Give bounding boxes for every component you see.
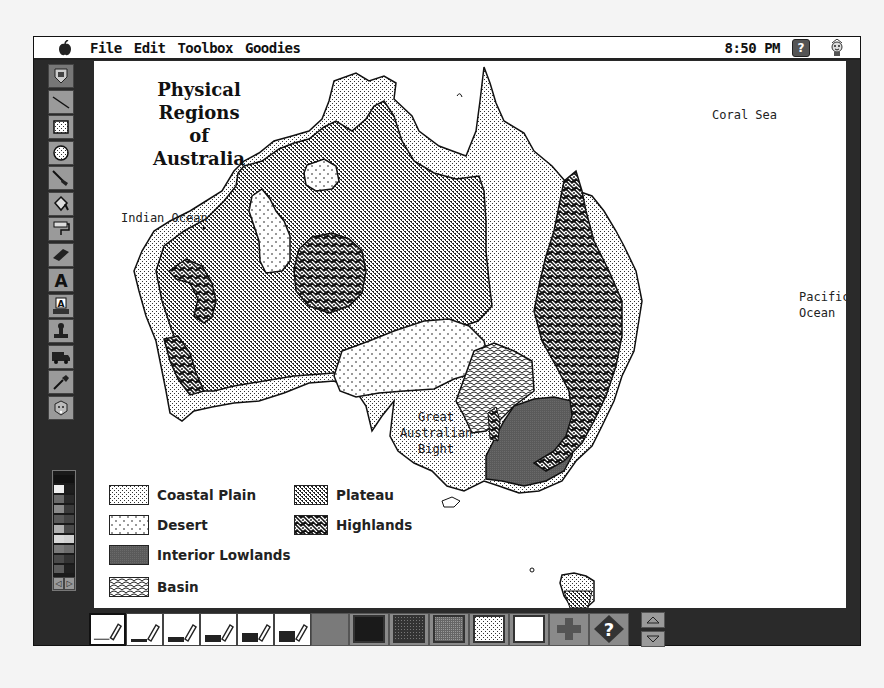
palette-swatch[interactable] [64,505,74,513]
menu-file[interactable]: File [90,40,122,56]
truck-tool[interactable] [48,345,74,369]
legend-label: Basin [157,579,199,595]
palette-swatch[interactable] [64,535,74,543]
paint-bucket-tool[interactable] [48,192,74,216]
interior-lowlands-swatch [109,545,149,565]
brush-size-2[interactable] [126,613,163,646]
legend-label: Highlands [336,517,412,533]
undo-face-icon [51,399,71,417]
color-palette: ◁ ▷ [52,470,76,591]
palette-swatch[interactable] [54,565,64,573]
palette-next-button[interactable]: ▷ [64,577,75,590]
palette-swatch[interactable] [54,535,64,543]
fill-medium-texture[interactable] [429,613,469,646]
text-tool[interactable]: A [48,268,74,292]
legend-item-highlands: Highlands [294,515,412,535]
palette-swatch[interactable] [54,545,64,553]
paint-roller-tool[interactable] [48,217,74,241]
coastal-plain-swatch [109,485,149,505]
toolbox: A A [48,64,74,421]
palette-swatch[interactable] [64,525,74,533]
eyedropper-tool[interactable] [48,370,74,394]
stamp-tool[interactable] [48,319,74,343]
rectangle-tool[interactable] [48,115,74,139]
palette-swatch[interactable] [54,485,64,493]
clock: 8:50 PM [724,40,780,56]
apple-icon[interactable] [56,40,74,56]
svg-text:A: A [54,271,68,289]
brush-size-4[interactable] [200,613,237,646]
keyboard-text-tool[interactable]: A [48,294,74,318]
legend-item-coastal-plain: Coastal Plain [109,485,256,505]
brush-size-3[interactable] [163,613,200,646]
legend-item-interior-lowlands: Interior Lowlands [109,545,291,565]
menu-goodies[interactable]: Goodies [245,40,301,56]
desert-swatch [109,515,149,535]
rectangle-icon [51,118,71,136]
bight-line-3: Bight [381,441,491,457]
cross-icon[interactable] [549,613,589,646]
pacific-line-1: Pacific [799,289,846,305]
keyboard-text-icon: A [51,297,71,315]
palette-swatch[interactable] [64,545,74,553]
truck-icon [51,348,71,366]
line-tool[interactable] [48,90,74,114]
palette-swatch[interactable] [64,515,74,523]
pencil-line-icon [239,617,273,645]
drawing-canvas[interactable]: Physical Regions of Australia Indian Oce… [94,61,846,608]
options-bar: ? [89,612,819,646]
title-line-3: Australia [119,147,279,170]
title-line-1: Physical Regions [119,78,279,124]
palette-swatch[interactable] [64,495,74,503]
line-icon [51,93,71,111]
eraser-tool[interactable] [48,243,74,267]
palette-swatch[interactable] [54,555,64,563]
oval-icon [51,144,71,162]
up-arrow-icon[interactable] [641,612,665,628]
fill-black[interactable] [349,613,389,646]
menu-edit[interactable]: Edit [134,40,166,56]
stamp-mascot-icon[interactable] [828,39,846,57]
undo-guy-tool[interactable] [48,396,74,420]
brush-size-1[interactable] [89,613,126,646]
palette-swatch[interactable] [64,555,74,563]
menu-toolbox[interactable]: Toolbox [177,40,233,56]
region-tasmania-plateau [564,591,592,608]
help-icon[interactable]: ? [792,39,810,57]
brush-tool[interactable] [48,166,74,190]
bight-line-1: Great [381,409,491,425]
paint-roller-icon [51,220,71,238]
palette-swatch[interactable] [64,565,74,573]
title-line-2: of [119,124,279,147]
palette-swatch[interactable] [54,505,64,513]
fill-dark-texture[interactable] [389,613,429,646]
palette-swatch[interactable] [54,475,64,483]
eraser-icon [51,246,71,264]
fill-light-dots[interactable] [469,613,509,646]
palette-swatch[interactable] [64,485,74,493]
text-a-icon: A [51,271,71,289]
pencil-line-icon [202,617,236,645]
oval-tool[interactable] [48,141,74,165]
label-coral-sea: Coral Sea [712,107,777,123]
palette-swatch[interactable] [54,515,64,523]
brush-size-5[interactable] [237,613,274,646]
brush-icon [51,169,71,187]
legend-item-basin: Basin [109,577,199,597]
palette-swatch[interactable] [54,525,64,533]
label-pacific-ocean: Pacific Ocean [799,289,846,321]
brush-size-6[interactable] [274,613,311,646]
map-title: Physical Regions of Australia [119,78,279,170]
magic-tool[interactable] [48,64,74,88]
bight-line-2: Australian [381,425,491,441]
app-window: File Edit Toolbox Goodies 8:50 PM ? [33,36,861,646]
palette-swatch[interactable] [64,475,74,483]
help-diamond-button[interactable]: ? [589,613,629,646]
palette-prev-button[interactable]: ◁ [53,577,64,590]
palette-swatch[interactable] [54,495,64,503]
menu-bar: File Edit Toolbox Goodies 8:50 PM ? [34,37,860,60]
paint-bucket-icon [51,195,71,213]
down-arrow-icon[interactable] [641,631,665,647]
help-glyph: ? [798,41,805,55]
fill-white[interactable] [509,613,549,646]
